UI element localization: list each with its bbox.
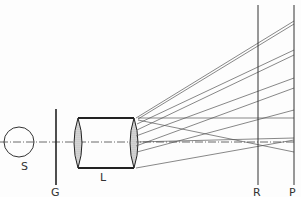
label-lens: L [100,171,107,184]
optical-diagram: S G L R P [0,0,301,197]
lens-tube [74,118,138,168]
ray-fan [136,21,294,168]
label-source: S [21,160,28,173]
label-plane-r: R [253,186,261,197]
diagram-canvas: S G L R P [0,0,301,197]
right-lens [130,118,138,168]
label-grid: G [51,186,60,197]
left-lens [74,118,82,168]
label-plane-p: P [289,186,296,197]
